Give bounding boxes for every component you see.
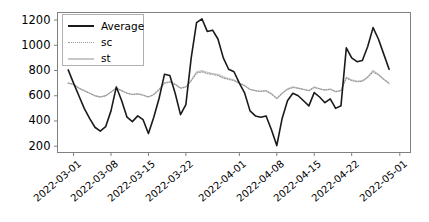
x-tick-marks xyxy=(74,153,400,157)
chart-figure: 20040060080010001200 2022-03-012022-03-0… xyxy=(0,0,429,222)
y-tick-marks xyxy=(54,20,58,146)
y-tick-label: 1000 xyxy=(7,39,51,51)
series-line-sc xyxy=(68,72,389,98)
legend-item-label: Average xyxy=(101,18,144,34)
series-line-st xyxy=(68,71,389,99)
y-tick-label: 200 xyxy=(7,140,51,152)
chart-legend: Averagescst xyxy=(62,14,144,66)
y-tick-label: 400 xyxy=(7,114,51,126)
legend-swatch-icon xyxy=(68,25,94,27)
legend-item-label: sc xyxy=(101,34,112,50)
y-tick-label: 1200 xyxy=(7,14,51,26)
legend-swatch-icon xyxy=(68,58,94,60)
y-tick-label: 600 xyxy=(7,89,51,101)
legend-item-st[interactable]: st xyxy=(63,50,143,66)
legend-item-label: st xyxy=(101,50,111,66)
legend-swatch-icon xyxy=(68,42,94,43)
y-tick-label: 800 xyxy=(7,64,51,76)
legend-item-sc[interactable]: sc xyxy=(63,34,143,50)
legend-item-average[interactable]: Average xyxy=(63,18,143,34)
